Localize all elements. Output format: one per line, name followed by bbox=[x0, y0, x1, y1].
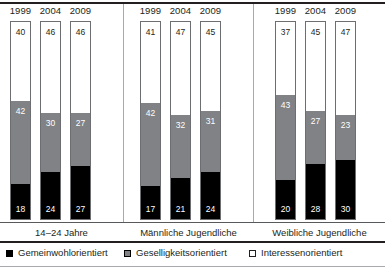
bar-segment: 27 bbox=[306, 111, 325, 164]
legend-item[interactable]: Gemeinwohlorientiert bbox=[6, 246, 108, 260]
bar-segment: 23 bbox=[336, 115, 355, 160]
segment-value-label: 45 bbox=[311, 27, 321, 37]
legend-swatch-icon bbox=[124, 250, 131, 257]
segment-value-label: 23 bbox=[341, 120, 351, 130]
stacked-bar[interactable]: 452728 bbox=[305, 21, 326, 220]
chart-legend: GemeinwohlorientiertGeselligkeitsorienti… bbox=[0, 246, 385, 262]
group-label: 14–24 Jahre bbox=[0, 226, 123, 240]
legend-label: Gemeinwohlorientiert bbox=[18, 246, 108, 260]
legend-item[interactable]: Geselligkeitsorientiert bbox=[124, 246, 227, 260]
segment-value-label: 28 bbox=[311, 204, 321, 214]
axis-baseline-rule bbox=[0, 222, 385, 223]
legend-label: Geselligkeitsorientiert bbox=[136, 246, 227, 260]
year-label: 2009 bbox=[332, 5, 359, 16]
legend-label: Interessenorientiert bbox=[261, 246, 342, 260]
segment-value-label: 37 bbox=[281, 27, 291, 37]
bar-segment: 45 bbox=[306, 22, 325, 111]
bar-segment: 47 bbox=[336, 22, 355, 115]
segment-value-label: 20 bbox=[281, 204, 291, 214]
legend-swatch-icon bbox=[6, 250, 13, 257]
group-label: Weibliche Jugendliche bbox=[254, 226, 385, 240]
segment-value-label: 43 bbox=[281, 100, 291, 110]
bar-segment: 37 bbox=[276, 22, 295, 95]
segment-value-label: 30 bbox=[341, 204, 351, 214]
bar-group: 199937432020044527282009472330Weibliche … bbox=[0, 0, 385, 222]
legend-item[interactable]: Interessenorientiert bbox=[249, 246, 342, 260]
year-label: 1999 bbox=[272, 5, 299, 16]
bar-segment: 43 bbox=[276, 95, 295, 180]
bar-segment: 20 bbox=[276, 180, 295, 219]
stacked-bar[interactable]: 472330 bbox=[335, 21, 356, 220]
bar-segment: 28 bbox=[306, 164, 325, 219]
bottom-rule bbox=[0, 266, 385, 267]
stacked-bar[interactable]: 374320 bbox=[275, 21, 296, 220]
segment-value-label: 27 bbox=[311, 116, 321, 126]
legend-swatch-icon bbox=[249, 250, 256, 257]
legend-separator-rule bbox=[0, 241, 385, 243]
bar-segment: 30 bbox=[336, 160, 355, 219]
stacked-bar-chart: 19994042182004463024200946272714–24 Jahr… bbox=[0, 0, 385, 271]
year-label: 2004 bbox=[302, 5, 329, 16]
segment-value-label: 47 bbox=[341, 27, 351, 37]
group-label: Männliche Jugendliche bbox=[124, 226, 253, 240]
